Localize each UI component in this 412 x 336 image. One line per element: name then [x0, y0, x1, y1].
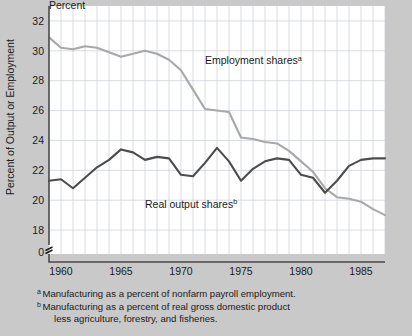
y-axis-tick-labels: 1820222426283032: [32, 15, 44, 236]
svg-text:Employment sharesa: Employment sharesa: [205, 54, 302, 66]
x-axis-tick-labels: 196019651970197519801985: [49, 265, 373, 277]
x-tick-1975: 1975: [229, 265, 253, 277]
y-tick-28: 28: [32, 74, 44, 86]
x-axis-line: [49, 254, 385, 262]
y-tick-26: 26: [32, 104, 44, 116]
x-tick-1970: 1970: [169, 265, 193, 277]
footnote-a: aManufacturing as a percent of nonfarm p…: [37, 288, 296, 299]
annotation-employment-shares: Employment sharesa: [205, 54, 302, 66]
y-tick-32: 32: [32, 15, 44, 27]
x-tick-1960: 1960: [49, 265, 73, 277]
footnote-b: bManufacturing as a percent of real gros…: [37, 301, 290, 312]
svg-text:aManufacturing as a percent of: aManufacturing as a percent of nonfarm p…: [37, 288, 296, 299]
y-axis-zero-label: 0: [38, 246, 44, 258]
y-tick-24: 24: [32, 134, 44, 146]
x-tick-1980: 1980: [289, 265, 313, 277]
footnote-b-continuation: less agriculture, forestry, and fisherie…: [54, 313, 218, 324]
chart-title: Percent: [49, 0, 85, 11]
svg-text:Real output sharesb: Real output sharesb: [145, 197, 237, 209]
chart-figure: 1820222426283032 0 196019651970197519801…: [0, 0, 412, 336]
svg-text:bManufacturing as a percent of: bManufacturing as a percent of real gros…: [37, 301, 290, 312]
y-tick-22: 22: [32, 164, 44, 176]
y-tick-18: 18: [32, 224, 44, 236]
y-tick-20: 20: [32, 194, 44, 206]
annotation-real-output-shares: Real output sharesb: [145, 197, 237, 209]
y-tick-30: 30: [32, 45, 44, 57]
x-tick-1985: 1985: [349, 265, 373, 277]
y-axis-title: Percent of Output or Employment: [4, 39, 16, 195]
x-tick-1965: 1965: [109, 265, 133, 277]
